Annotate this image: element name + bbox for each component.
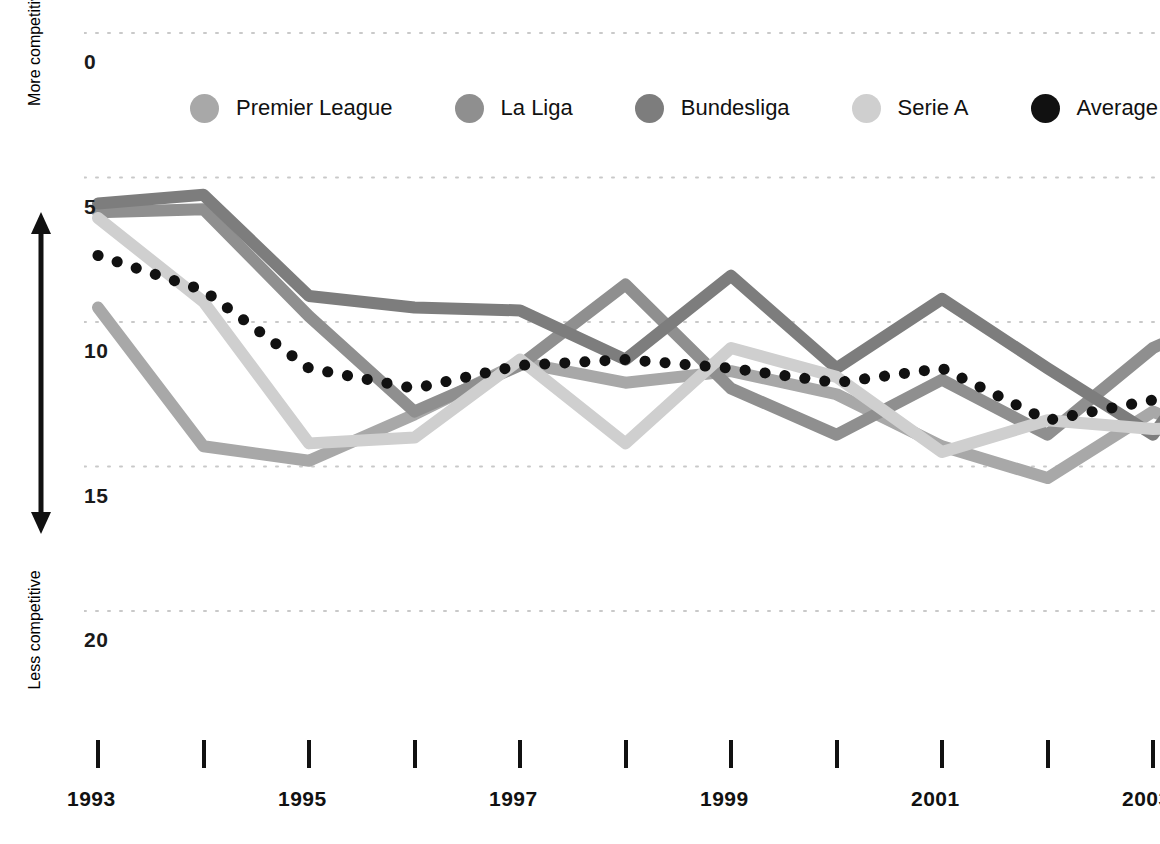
x-axis-tick-label: 2001 (911, 787, 960, 811)
x-axis-tick (202, 740, 206, 768)
legend-label: Bundesliga (681, 95, 790, 121)
x-axis-tick (835, 740, 839, 768)
x-axis-tick (96, 740, 100, 768)
x-axis: 199319951997199920012003 (84, 735, 1160, 840)
x-axis-tick-label: 2003 (1122, 787, 1160, 811)
x-axis-tick (940, 740, 944, 768)
legend-item-bundesliga[interactable]: Bundesliga (635, 94, 790, 123)
y-axis-tick-label: 10 (84, 339, 108, 363)
x-axis-tick (1151, 740, 1155, 768)
x-axis-tick-label: 1995 (278, 787, 327, 811)
circle-marker-icon (1031, 94, 1060, 123)
circle-marker-icon (190, 94, 219, 123)
legend-label: Serie A (898, 95, 969, 121)
x-axis-tick (307, 740, 311, 768)
y-axis-more-competitive-label: More competitive (26, 0, 44, 106)
legend-label: Average (1077, 95, 1159, 121)
double-headed-arrow-icon (28, 212, 54, 534)
y-axis-tick-label: 5 (84, 195, 96, 219)
y-axis-direction-indicator: More competitive Less competitive (0, 0, 66, 720)
x-axis-tick (729, 740, 733, 768)
circle-marker-icon (455, 94, 484, 123)
circle-marker-icon (635, 94, 664, 123)
circle-marker-icon (852, 94, 881, 123)
x-axis-tick (518, 740, 522, 768)
legend-label: Premier League (236, 95, 393, 121)
legend-item-premier-league[interactable]: Premier League (190, 94, 393, 123)
chart-legend: Premier LeagueLa LigaBundesligaSerie AAv… (190, 86, 1158, 130)
x-axis-tick (413, 740, 417, 768)
x-axis-tick-label: 1999 (700, 787, 749, 811)
x-axis-tick-label: 1997 (489, 787, 538, 811)
y-axis-tick-label: 20 (84, 628, 108, 652)
y-axis-tick-label: 15 (84, 484, 108, 508)
x-axis-tick (1046, 740, 1050, 768)
x-axis-tick-label: 1993 (67, 787, 116, 811)
legend-item-la-liga[interactable]: La Liga (455, 94, 573, 123)
legend-label: La Liga (501, 95, 573, 121)
x-axis-tick (624, 740, 628, 768)
legend-item-average[interactable]: Average (1031, 94, 1159, 123)
competitiveness-line-chart: More competitive Less competitive 051015… (0, 0, 1160, 844)
y-axis-tick-label: 0 (84, 50, 96, 74)
legend-item-serie-a[interactable]: Serie A (852, 94, 969, 123)
y-axis-less-competitive-label: Less competitive (26, 570, 44, 689)
